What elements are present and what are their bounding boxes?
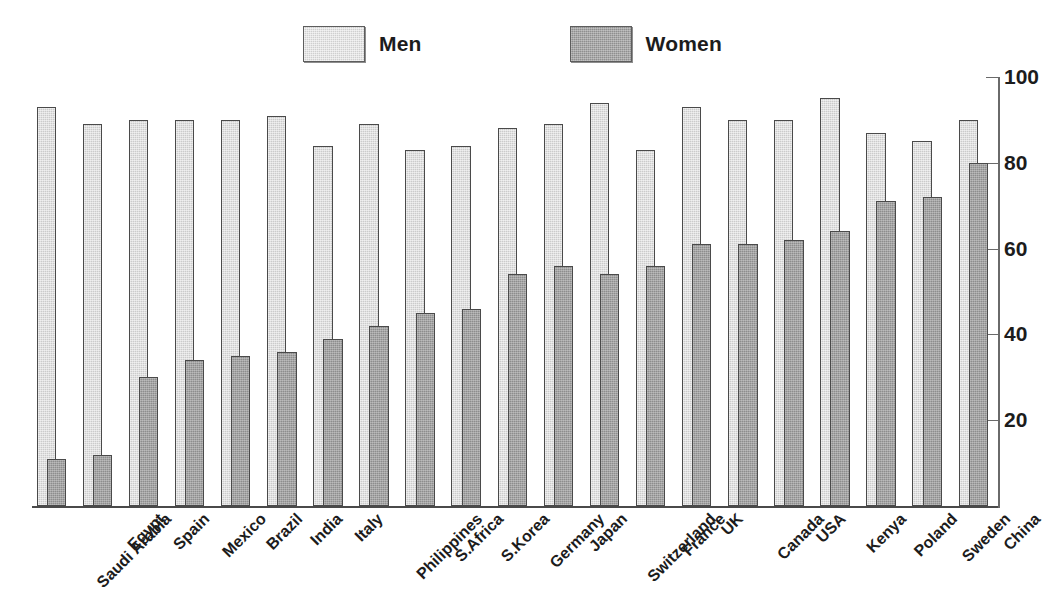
- x-axis-label: Italy: [351, 510, 386, 545]
- bar-group: [78, 77, 124, 506]
- bar-women: [47, 459, 66, 506]
- bar-group: [677, 77, 723, 506]
- bar-men: [83, 124, 102, 506]
- bar-women: [93, 455, 112, 506]
- bar-women: [738, 244, 757, 506]
- bar-women: [969, 163, 988, 506]
- y-axis-tick-label: 80: [1004, 151, 1027, 175]
- bar-group: [170, 77, 216, 506]
- y-axis-tick-label: 20: [1004, 408, 1027, 432]
- bar-women: [277, 352, 296, 506]
- y-axis-tick-label: 40: [1004, 322, 1027, 346]
- bar-women: [784, 240, 803, 506]
- legend-label-women: Women: [646, 32, 722, 56]
- bar-group: [770, 77, 816, 506]
- bar-women: [508, 274, 527, 506]
- bar-women: [369, 326, 388, 506]
- chart-legend: Men Women: [0, 26, 1025, 62]
- y-axis-line: [998, 77, 1000, 508]
- bar-women: [692, 244, 711, 506]
- bar-group: [816, 77, 862, 506]
- legend-item-men: Men: [303, 26, 422, 62]
- bar-group: [908, 77, 954, 506]
- bar-group: [585, 77, 631, 506]
- plot-area: [32, 77, 1000, 506]
- bar-group: [309, 77, 355, 506]
- x-axis-label: Brazil: [262, 510, 306, 554]
- x-axis-label: India: [307, 510, 346, 549]
- bar-women: [923, 197, 942, 506]
- bar-group: [355, 77, 401, 506]
- legend-label-men: Men: [379, 32, 422, 56]
- bar-women: [554, 266, 573, 506]
- bar-group: [32, 77, 78, 506]
- legend-item-women: Women: [570, 26, 722, 62]
- bar-women: [323, 339, 342, 506]
- bar-group: [954, 77, 1000, 506]
- x-axis-label: S.Korea: [498, 510, 553, 565]
- x-axis-label: Kenya: [863, 510, 910, 557]
- bar-women: [139, 377, 158, 506]
- bar-women: [830, 231, 849, 506]
- bar-group: [493, 77, 539, 506]
- x-axis-label: Poland: [911, 510, 961, 560]
- y-axis-tick-label: 60: [1004, 237, 1027, 261]
- bar-group: [262, 77, 308, 506]
- bar-women: [231, 356, 250, 506]
- bar-women: [876, 201, 895, 506]
- bar-group: [631, 77, 677, 506]
- x-axis-labels: Saudi ArabiaEgyptSpainMexicoBrazilIndiaI…: [32, 508, 1000, 579]
- bar-group: [401, 77, 447, 506]
- x-axis-label: Spain: [170, 510, 214, 554]
- bar-women: [462, 309, 481, 506]
- bar-group: [539, 77, 585, 506]
- bar-men: [37, 107, 56, 506]
- bar-women: [600, 274, 619, 506]
- bar-women: [646, 266, 665, 506]
- y-axis-tick-label: 100: [1004, 65, 1039, 89]
- x-axis-label: Mexico: [219, 510, 270, 561]
- bar-group: [723, 77, 769, 506]
- bars-container: [32, 77, 1000, 506]
- y-axis-tick: [986, 77, 999, 78]
- bar-women: [416, 313, 435, 506]
- bar-group: [216, 77, 262, 506]
- bar-group: [124, 77, 170, 506]
- legend-swatch-women-icon: [570, 26, 632, 62]
- legend-swatch-men-icon: [303, 26, 365, 62]
- bar-group: [447, 77, 493, 506]
- bar-women: [185, 360, 204, 506]
- bar-group: [862, 77, 908, 506]
